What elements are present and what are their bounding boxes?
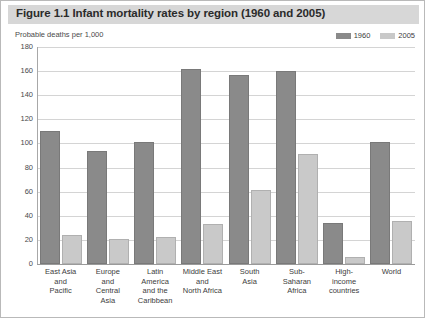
- bar-1960-group-6: [323, 223, 343, 264]
- x-label-line: Asia: [226, 277, 273, 287]
- figure-container: Figure 1.1 Infant mortality rates by reg…: [0, 0, 425, 318]
- y-tick-label-20: 20: [5, 236, 33, 244]
- x-label-line: and the: [132, 286, 179, 296]
- x-label-line: Central: [84, 286, 131, 296]
- x-label-3: Middle EastandNorth Africa: [179, 267, 226, 296]
- x-label-2: LatinAmericaand theCaribbean: [132, 267, 179, 305]
- x-label-line: and: [37, 277, 84, 287]
- bar-2005-group-3: [203, 224, 223, 264]
- chart-legend: 19602005: [336, 32, 415, 40]
- x-label-1: EuropeandCentralAsia: [84, 267, 131, 305]
- bar-1960-group-7: [370, 142, 390, 264]
- legend-swatch-1960: [336, 33, 351, 39]
- y-tick-label-40: 40: [5, 212, 33, 220]
- x-label-line: Sub-: [273, 267, 320, 277]
- bar-2005-group-6: [345, 257, 365, 264]
- x-label-line: East Asia: [37, 267, 84, 277]
- x-label-line: High-: [321, 267, 368, 277]
- y-tick-label-80: 80: [5, 164, 33, 172]
- y-tick-label-100: 100: [5, 139, 33, 147]
- y-tick-label-140: 140: [5, 91, 33, 99]
- y-axis-tick-labels: 180160140120100806040200: [1, 47, 33, 265]
- legend-swatch-2005: [380, 33, 395, 39]
- x-label-line: Asia: [84, 296, 131, 306]
- y-tick-label-120: 120: [5, 115, 33, 123]
- bar-1960-group-1: [87, 151, 107, 264]
- x-label-line: America: [132, 277, 179, 287]
- bar-1960-group-3: [181, 69, 201, 264]
- bar-2005-group-1: [109, 239, 129, 264]
- bars-layer: [37, 47, 415, 264]
- y-tick-label-160: 160: [5, 67, 33, 75]
- x-axis-line: [37, 264, 415, 265]
- legend-item-1960[interactable]: 1960: [336, 32, 371, 40]
- bar-2005-group-7: [392, 221, 412, 264]
- x-label-line: Middle East: [179, 267, 226, 277]
- x-label-0: East AsiaandPacific: [37, 267, 84, 296]
- legend-item-2005[interactable]: 2005: [380, 32, 415, 40]
- y-tick-label-60: 60: [5, 188, 33, 196]
- figure-title: Figure 1.1 Infant mortality rates by reg…: [16, 7, 325, 19]
- x-label-line: countries: [321, 286, 368, 296]
- x-label-line: Europe: [84, 267, 131, 277]
- bar-1960-group-5: [276, 71, 296, 264]
- x-label-line: and: [84, 277, 131, 287]
- x-label-7: World: [368, 267, 415, 277]
- x-label-5: Sub-SaharanAfrica: [273, 267, 320, 296]
- legend-label-2005: 2005: [398, 32, 415, 40]
- x-label-line: income: [321, 277, 368, 287]
- y-tick-label-0: 0: [5, 260, 33, 268]
- x-label-4: SouthAsia: [226, 267, 273, 286]
- x-axis-category-labels: East AsiaandPacificEuropeandCentralAsiaL…: [37, 267, 415, 317]
- bar-2005-group-4: [251, 190, 271, 264]
- figure-title-band: Figure 1.1 Infant mortality rates by reg…: [8, 5, 419, 24]
- x-label-line: World: [368, 267, 415, 277]
- x-label-line: and: [179, 277, 226, 287]
- x-label-6: High-incomecountries: [321, 267, 368, 296]
- bar-2005-group-5: [298, 154, 318, 264]
- x-label-line: Caribbean: [132, 296, 179, 306]
- bar-1960-group-2: [134, 142, 154, 264]
- x-label-line: Saharan: [273, 277, 320, 287]
- x-label-line: North Africa: [179, 286, 226, 296]
- bar-2005-group-0: [62, 235, 82, 264]
- x-label-line: Latin: [132, 267, 179, 277]
- x-label-line: Africa: [273, 286, 320, 296]
- x-label-line: South: [226, 267, 273, 277]
- x-label-line: Pacific: [37, 286, 84, 296]
- figure-subtitle: Probable deaths per 1,000: [15, 30, 103, 39]
- bar-1960-group-4: [229, 75, 249, 264]
- legend-label-1960: 1960: [354, 32, 371, 40]
- y-tick-label-180: 180: [5, 43, 33, 51]
- bar-2005-group-2: [156, 237, 176, 264]
- bar-1960-group-0: [40, 131, 60, 264]
